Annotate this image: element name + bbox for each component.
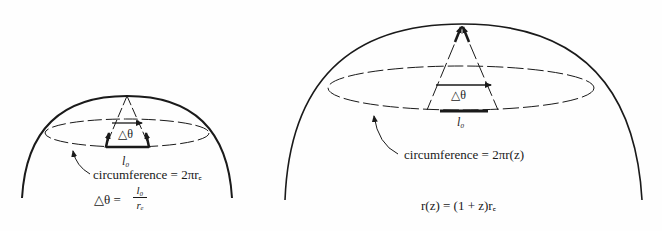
right-l0-label: l₀ bbox=[457, 116, 465, 128]
left-l0-label: l₀ bbox=[122, 155, 130, 167]
left-equation-lhs: △θ = bbox=[94, 193, 121, 206]
fraction-numerator: l₀ bbox=[137, 184, 144, 196]
left-circumference-label: circumference = 2πrₑ bbox=[93, 168, 202, 181]
left-delta-theta-label: △θ bbox=[118, 128, 133, 140]
right-equation: r(z) = (1 + z)rₑ bbox=[421, 199, 496, 212]
expanding-sphere-diagram: △θ l₀ circumference = 2πrₑ △θ = l₀ rₑ △θ… bbox=[0, 0, 662, 231]
left-equation-fraction: l₀ rₑ bbox=[133, 184, 147, 211]
right-sphere bbox=[285, 24, 642, 200]
left-sphere bbox=[22, 96, 232, 198]
fraction-denominator: rₑ bbox=[136, 199, 143, 211]
fraction-bar bbox=[133, 197, 147, 198]
right-delta-theta-label: △θ bbox=[451, 89, 466, 101]
right-circumference-label: circumference = 2πr(z) bbox=[404, 148, 524, 161]
